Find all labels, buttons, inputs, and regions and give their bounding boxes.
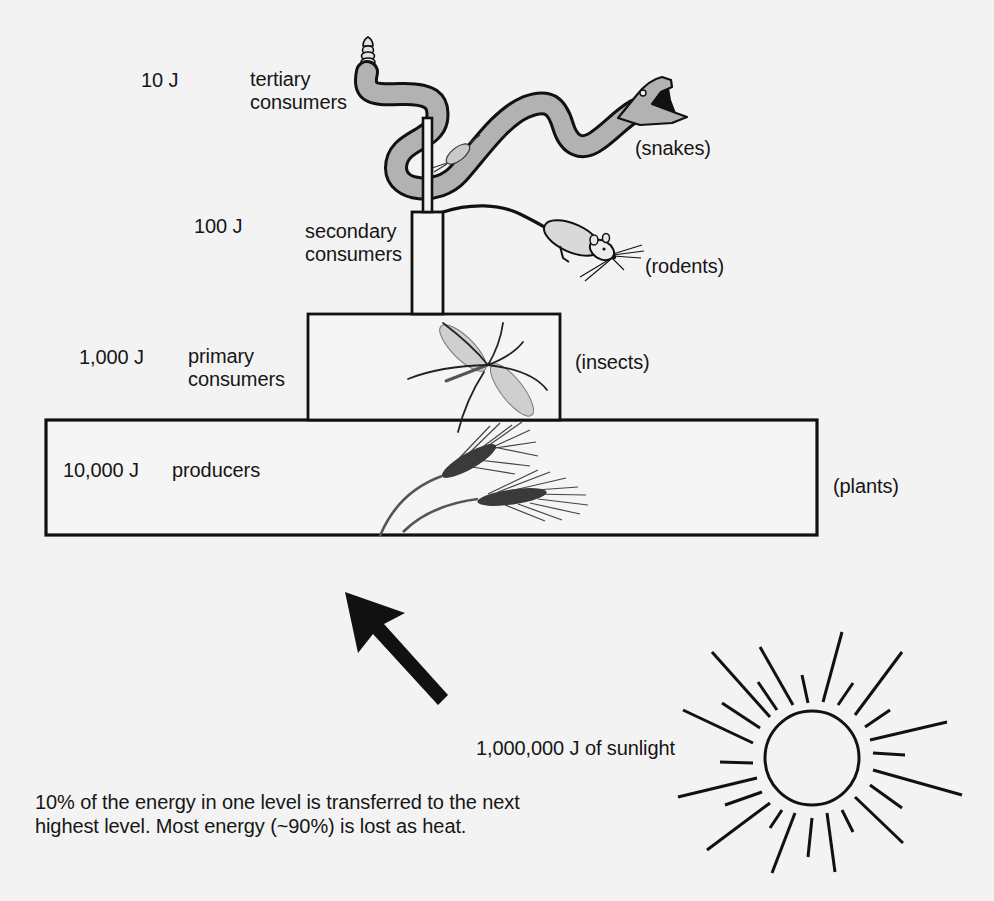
energy-label-producers: 10,000 J <box>63 459 139 482</box>
energy-label-tertiary: 10 J <box>141 69 178 92</box>
level-name-producers: producers <box>172 459 260 482</box>
level-name-tertiary: tertiary consumers <box>250 68 347 114</box>
note-line2: highest level. Most energy (~90%) is los… <box>35 814 520 838</box>
level-name-line2: consumers <box>188 368 285 391</box>
snake-eye <box>640 90 646 96</box>
organism-label-insects: (insects) <box>575 351 650 374</box>
pyramid-levels <box>46 118 817 535</box>
energy-pyramid-diagram: 10 J tertiary consumers (snakes) 100 J s… <box>0 0 994 901</box>
level-name-line1: secondary <box>305 220 402 243</box>
level-name-line1: primary <box>188 345 285 368</box>
level-name-primary: primary consumers <box>188 345 285 391</box>
sunlight-energy-label: 1,000,000 J of sunlight <box>476 737 675 760</box>
snake-icon <box>361 37 688 188</box>
level-box-secondary-consumers <box>412 212 443 314</box>
level-name-line1: tertiary <box>250 68 347 91</box>
note-line1: 10% of the energy in one level is transf… <box>35 790 520 814</box>
arrow-up-left-icon <box>345 592 448 705</box>
level-box-producers <box>46 420 817 535</box>
level-box-tertiary-consumers <box>423 118 432 212</box>
diagram-artwork <box>0 0 994 901</box>
level-name-line2: consumers <box>305 243 402 266</box>
organism-label-plants: (plants) <box>833 475 899 498</box>
energy-transfer-note: 10% of the energy in one level is transf… <box>35 790 520 838</box>
level-name-line2: consumers <box>250 91 347 114</box>
organism-label-rodents: (rodents) <box>645 255 724 278</box>
energy-label-secondary: 100 J <box>194 215 242 238</box>
level-name-secondary: secondary consumers <box>305 220 402 266</box>
organism-label-snakes: (snakes) <box>635 137 711 160</box>
sun-icon <box>678 632 962 873</box>
energy-label-primary: 1,000 J <box>79 346 144 369</box>
rodent-icon <box>443 206 644 281</box>
